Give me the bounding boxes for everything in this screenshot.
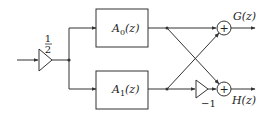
inverter-triangle <box>196 80 208 98</box>
svg-text:+: + <box>219 83 228 96</box>
wire-A1-to-sum-top <box>167 33 219 89</box>
output-H-label: H(z) <box>231 94 256 107</box>
output-G-label: G(z) <box>233 10 256 23</box>
adder-bottom: + <box>217 82 231 96</box>
block-A0: A0(z) <box>96 9 148 47</box>
block-diagram: 1 2 A0(z) A1(z) −1 + + <box>0 0 271 115</box>
gain-numerator: 1 <box>45 33 51 44</box>
svg-text:+: + <box>219 22 228 35</box>
svg-text:A0(z): A0(z) <box>111 22 139 37</box>
gain-denominator: 2 <box>45 44 51 55</box>
adder-top: + <box>217 21 231 35</box>
wire-A0-to-sum-bottom <box>167 28 219 84</box>
block-A1: A1(z) <box>96 71 148 109</box>
svg-text:A1(z): A1(z) <box>111 83 139 98</box>
inverter-gain-label: −1 <box>201 98 216 109</box>
